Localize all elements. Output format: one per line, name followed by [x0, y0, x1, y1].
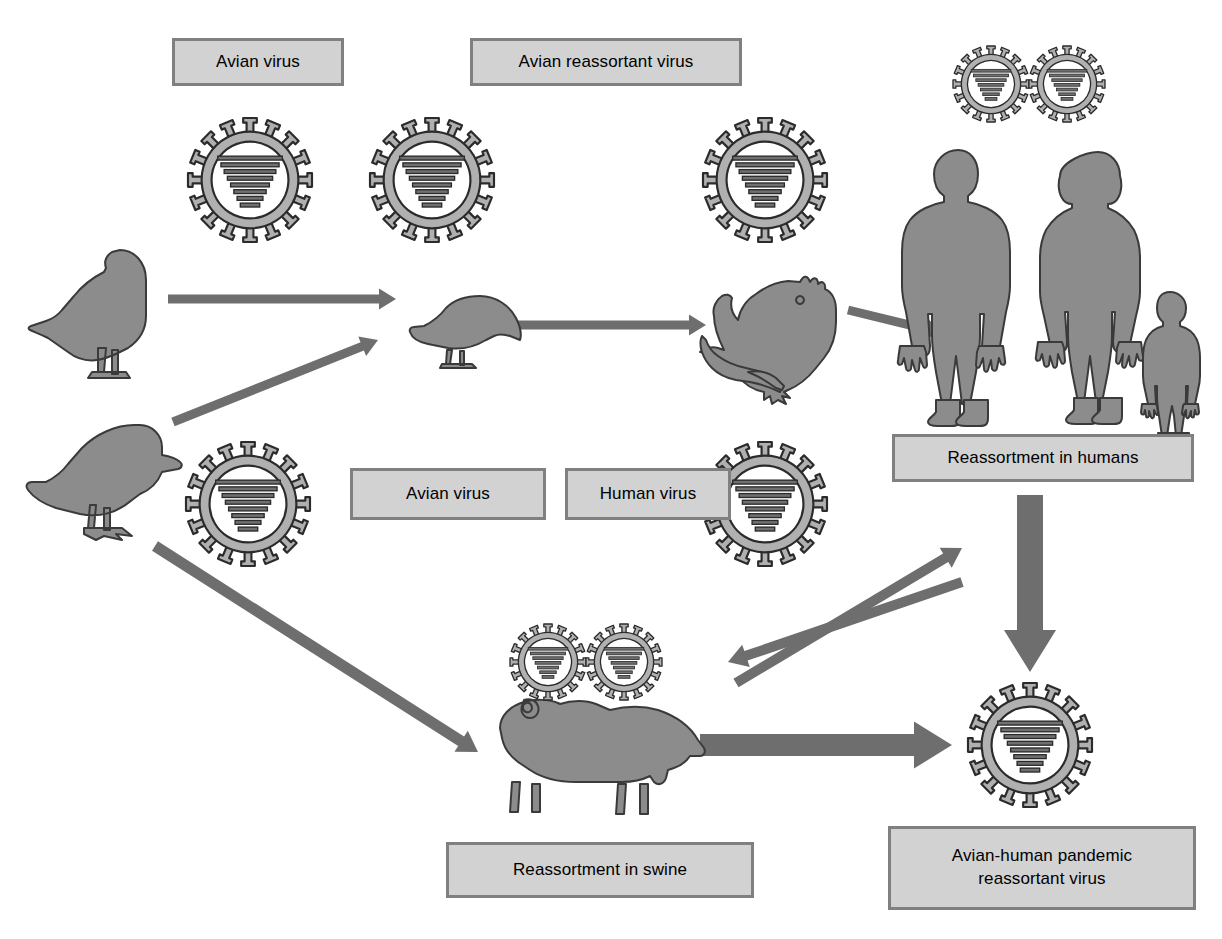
- arrows-group: [148, 288, 1056, 768]
- virus-particle-virus-avian-duck: [186, 442, 310, 566]
- arrow-duck-to-pig: [148, 536, 484, 763]
- rooster-silhouette: [700, 277, 836, 404]
- woman-silhouette: [1036, 152, 1144, 424]
- label-avian-virus-top: Avian virus: [172, 38, 344, 86]
- virus-particle-virus-rooster: [703, 118, 827, 242]
- label-text-line1: Avian-human pandemic: [952, 845, 1132, 868]
- influenza-reassortment-diagram: Avian virus Avian reassortant virus Avia…: [0, 0, 1222, 939]
- label-human-virus: Human virus: [565, 468, 731, 520]
- arrow-duck-to-sparrow: [169, 330, 382, 432]
- label-avian-virus-mid: Avian virus: [350, 468, 546, 520]
- virus-particle-virus-human-pair-right: [1029, 46, 1105, 122]
- arrow-humans-to-pandemic: [1004, 495, 1056, 672]
- label-avian-human-pandemic-reassortant-virus: Avian-human pandemic reassortant virus: [888, 826, 1196, 910]
- arrow-sparrow-to-rooster: [518, 314, 706, 335]
- label-reassortment-in-swine: Reassortment in swine: [446, 842, 754, 898]
- virus-particle-virus-swine-pair-right: [586, 624, 662, 700]
- child-silhouette: [1141, 292, 1200, 450]
- virus-particle-virus-swine-pair-left: [510, 624, 586, 700]
- arrow-pig-to-pandemic: [700, 721, 952, 768]
- label-text: Reassortment in swine: [513, 859, 687, 882]
- virus-particle-virus-avian-reassortant: [370, 118, 494, 242]
- virus-particles-group: [186, 46, 1105, 807]
- duck-silhouette: [27, 425, 182, 540]
- label-text: Human virus: [600, 483, 697, 506]
- goose-silhouette: [29, 250, 146, 378]
- arrow-rooster-to-humans: [845, 300, 944, 343]
- label-text: Avian virus: [406, 483, 490, 506]
- arrow-swine-to-human-up: [730, 538, 968, 693]
- virus-particle-virus-avian-1: [188, 118, 312, 242]
- label-text: Avian virus: [216, 51, 300, 74]
- pig-silhouette: [500, 699, 705, 814]
- arrow-goose-to-sparrow: [168, 288, 396, 309]
- arrow-human-to-swine-down: [724, 571, 966, 673]
- sparrow-silhouette: [410, 296, 521, 368]
- label-text-line2: reassortant virus: [978, 868, 1105, 891]
- label-avian-reassortant-virus: Avian reassortant virus: [470, 38, 742, 86]
- label-text: Avian reassortant virus: [519, 51, 694, 74]
- label-reassortment-in-humans: Reassortment in humans: [892, 434, 1194, 482]
- man-silhouette: [898, 150, 1010, 426]
- virus-particle-virus-pandemic: [968, 683, 1092, 807]
- virus-particle-virus-human-pair-left: [953, 46, 1029, 122]
- label-text: Reassortment in humans: [947, 447, 1138, 470]
